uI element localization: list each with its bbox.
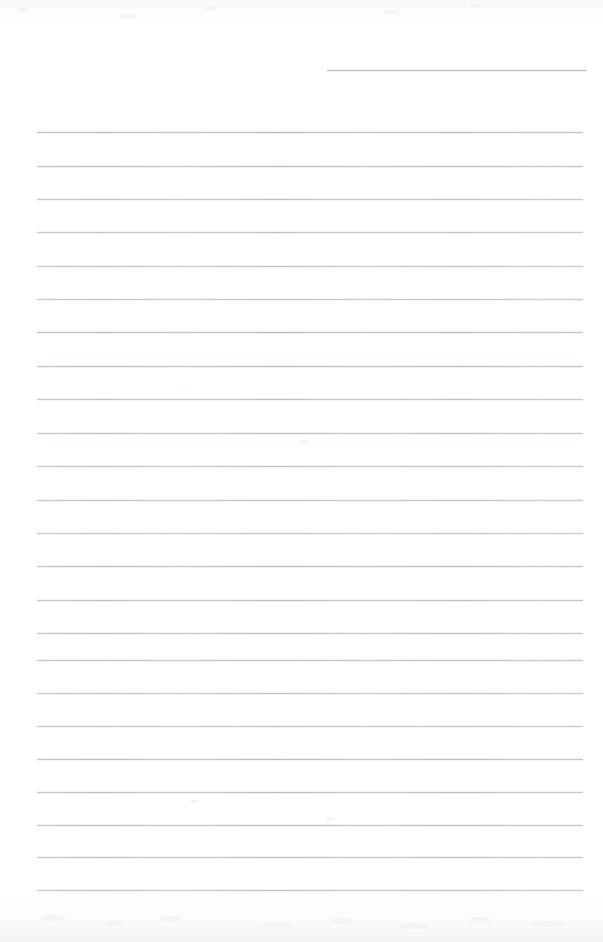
rule-line xyxy=(37,633,583,634)
rule-line xyxy=(37,792,583,793)
rule-line xyxy=(37,299,583,300)
rule-line-partial xyxy=(327,70,586,71)
rule-line xyxy=(37,660,583,661)
rule-line xyxy=(37,566,583,567)
scanned-page xyxy=(0,0,603,942)
rule-line xyxy=(37,857,583,858)
rule-line xyxy=(37,399,583,400)
rule-line xyxy=(37,759,583,760)
rule-line xyxy=(37,693,583,694)
rule-line xyxy=(37,890,583,891)
rule-line xyxy=(37,433,583,434)
rule-line xyxy=(37,166,583,167)
rule-line xyxy=(37,726,583,727)
rule-line xyxy=(37,132,583,133)
rule-line xyxy=(37,332,583,333)
rule-line xyxy=(37,366,583,367)
rule-line xyxy=(37,466,583,467)
rule-line xyxy=(37,232,583,233)
rule-line xyxy=(37,533,583,534)
rule-line xyxy=(37,825,583,826)
rule-line xyxy=(37,600,583,601)
rule-line xyxy=(37,266,583,267)
rule-line xyxy=(37,500,583,501)
ruled-line-layer xyxy=(0,0,603,942)
rule-line xyxy=(37,199,583,200)
